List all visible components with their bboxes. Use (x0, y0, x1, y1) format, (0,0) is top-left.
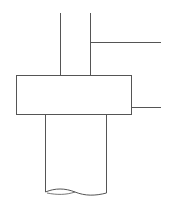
mechanical-diagram (0, 0, 173, 210)
break-line-inner (47, 192, 75, 194)
collar-box (17, 76, 132, 115)
